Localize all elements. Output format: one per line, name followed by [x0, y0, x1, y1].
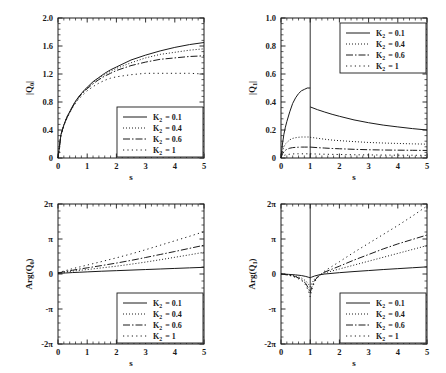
y-tick-label: 0.6 [265, 69, 276, 79]
y-tick-label: 0.4 [42, 125, 53, 135]
x-tick-label: 0 [279, 161, 283, 171]
y-tick-label: 0 [49, 153, 53, 163]
y-tick-label: 2π [267, 199, 276, 209]
x-tick-label: 5 [202, 161, 206, 171]
y-tick-label: π [48, 234, 53, 244]
x-tick-label: 1 [308, 347, 312, 357]
y-tick-label: -2π [264, 339, 276, 349]
y-tick-label: 0.4 [265, 97, 276, 107]
curve-series-0 [58, 267, 204, 273]
x-tick-label: 0 [279, 347, 283, 357]
legend-entry-label: K2= 1 [153, 146, 176, 156]
y-axis-title: Arg(Q1) [247, 258, 258, 289]
curve-series-2 [281, 147, 310, 158]
x-tick-label: 0 [56, 347, 60, 357]
y-tick-label: 0.8 [265, 41, 276, 51]
x-tick-label: 5 [425, 347, 429, 357]
y-tick-label: π [271, 234, 276, 244]
y-tick-label: 2π [44, 199, 53, 209]
y-tick-label: -π [269, 304, 277, 314]
legend: K2= 0.1K2= 0.4K2= 0.6K2= 1 [340, 293, 426, 343]
y-tick-label: 2.0 [42, 13, 53, 23]
legend-entry-label: K2= 0.4 [376, 40, 405, 50]
curve-series-3 [58, 232, 204, 273]
svg-text:Arg(Q1): Arg(Q1) [247, 258, 258, 289]
x-tick-label: 2 [337, 347, 341, 357]
x-tick-label: 2 [114, 161, 118, 171]
y-tick-label: 0.8 [42, 97, 53, 107]
x-axis-title: s [352, 172, 356, 182]
svg-text:Arg(Q0): Arg(Q0) [24, 258, 35, 289]
legend-entry-label: K2= 0.6 [153, 135, 182, 145]
legend-entry-label: K2= 0.4 [153, 310, 182, 320]
curve-series-0 [310, 107, 427, 130]
legend-entry-label: K2= 0.1 [153, 299, 182, 309]
curve-series-3 [281, 154, 310, 158]
legend: K2= 0.1K2= 0.4K2= 0.6K2= 1 [117, 107, 203, 157]
y-tick-label: 0 [49, 269, 53, 279]
legend-entry-label: K2= 0.4 [376, 310, 405, 320]
legend-entry-label: K2= 0.4 [153, 124, 182, 134]
x-tick-label: 3 [366, 347, 370, 357]
x-tick-label: 1 [85, 347, 89, 357]
figure-container: 01234500.40.81.21.62.0s|Q0|K2= 0.1K2= 0.… [0, 0, 446, 373]
legend-entry-label: K2= 0.1 [376, 29, 405, 39]
x-tick-label: 4 [173, 347, 178, 357]
x-tick-label: 2 [114, 347, 118, 357]
curve-series-2 [281, 235, 427, 293]
curve-series-1 [310, 137, 427, 144]
x-tick-label: 3 [143, 347, 147, 357]
legend-entry-label: K2= 0.1 [376, 299, 405, 309]
x-tick-label: 4 [396, 347, 401, 357]
x-axis-title: s [352, 358, 356, 368]
x-tick-label: 1 [85, 161, 89, 171]
y-tick-label: 1.2 [42, 69, 53, 79]
svg-text:|Q1|: |Q1| [247, 81, 258, 95]
curve-series-3 [281, 206, 427, 297]
legend-entry-label: K2= 1 [376, 332, 399, 342]
x-tick-label: 4 [173, 161, 178, 171]
curve-series-2 [310, 147, 427, 150]
x-tick-label: 2 [337, 161, 341, 171]
x-tick-label: 5 [202, 347, 206, 357]
legend-entry-label: K2= 0.6 [376, 321, 405, 331]
legend-entry-label: K2= 1 [153, 332, 176, 342]
y-axis-title: |Q0| [24, 81, 35, 95]
svg-text:|Q0|: |Q0| [24, 81, 35, 95]
y-tick-label: 1.6 [42, 41, 53, 51]
y-tick-label: 0 [272, 153, 276, 163]
legend: K2= 0.1K2= 0.4K2= 0.6K2= 1 [340, 23, 426, 73]
y-tick-label: 0 [272, 269, 276, 279]
x-axis-title: s [129, 358, 133, 368]
y-tick-label: 1.0 [265, 13, 276, 23]
legend-entry-label: K2= 0.6 [153, 321, 182, 331]
x-tick-label: 3 [143, 161, 147, 171]
y-axis-title: Arg(Q0) [24, 258, 35, 289]
x-axis-title: s [129, 172, 133, 182]
x-tick-label: 5 [425, 161, 429, 171]
y-tick-label: 0.2 [265, 125, 276, 135]
x-tick-label: 3 [366, 161, 370, 171]
y-tick-label: -2π [41, 339, 53, 349]
x-tick-label: 4 [396, 161, 401, 171]
legend: K2= 0.1K2= 0.4K2= 0.6K2= 1 [117, 293, 203, 343]
legend-entry-label: K2= 0.1 [153, 113, 182, 123]
y-axis-title: |Q1| [247, 81, 258, 95]
panel-q0-phase: 012345-2π-π0π2πsArg(Q0)K2= 0.1K2= 0.4K2=… [0, 188, 223, 373]
panel-q0-magnitude: 01234500.40.81.21.62.0s|Q0|K2= 0.1K2= 0.… [0, 2, 223, 187]
curve-series-2 [58, 245, 204, 273]
curve-series-0 [281, 267, 427, 278]
x-tick-label: 1 [308, 161, 312, 171]
panel-q1-phase: 012345-2π-π0π2πsArg(Q1)K2= 0.1K2= 0.4K2=… [223, 188, 446, 373]
x-tick-label: 0 [56, 161, 60, 171]
legend-entry-label: K2= 1 [376, 62, 399, 72]
legend-entry-label: K2= 0.6 [376, 51, 405, 61]
panel-q1-magnitude: 01234500.20.40.60.81.0s|Q1|K2= 0.1K2= 0.… [223, 2, 446, 187]
y-tick-label: -π [46, 304, 54, 314]
